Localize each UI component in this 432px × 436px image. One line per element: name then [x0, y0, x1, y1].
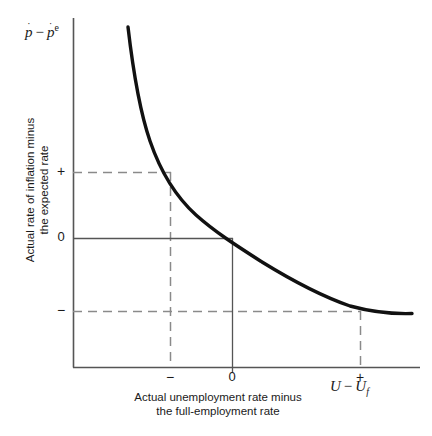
y-tick-minus: −	[52, 302, 70, 318]
x-axis-title-line1: Actual unemployment rate minus	[134, 391, 301, 403]
phillips-curve-figure: ˙p−˙pe U−Uf + 0 − − 0 + Actual rate of i…	[0, 0, 432, 436]
y-axis-title-line2: the expected rate	[38, 146, 50, 235]
x-tick-minus: −	[161, 369, 179, 385]
dot-accent-expected: ˙	[49, 21, 53, 32]
p-dot-expected: ˙p	[47, 24, 55, 41]
axes-group	[73, 18, 420, 368]
subscript-f: f	[366, 386, 369, 397]
superscript-e: e	[54, 22, 58, 33]
x-tick-plus: +	[351, 369, 369, 385]
guide-lines-group	[73, 172, 361, 367]
y-tick-zero: 0	[52, 229, 70, 244]
minus-operator-y: −	[33, 24, 47, 40]
y-tick-plus: +	[52, 163, 70, 179]
x-axis-title: Actual unemployment rate minus the full-…	[73, 390, 363, 418]
x-axis-title-line2: the full-employment rate	[156, 405, 279, 417]
x-tick-zero: 0	[223, 369, 241, 384]
dot-accent-actual: ˙	[27, 21, 31, 32]
y-axis-variable-label: ˙p−˙pe	[25, 22, 59, 41]
y-axis-title: Actual rate of inflation minus the expec…	[23, 80, 51, 300]
p-dot-actual: ˙p	[25, 24, 33, 41]
origin-crosshair-group	[73, 238, 233, 367]
y-axis-title-line1: Actual rate of inflation minus	[24, 118, 36, 262]
